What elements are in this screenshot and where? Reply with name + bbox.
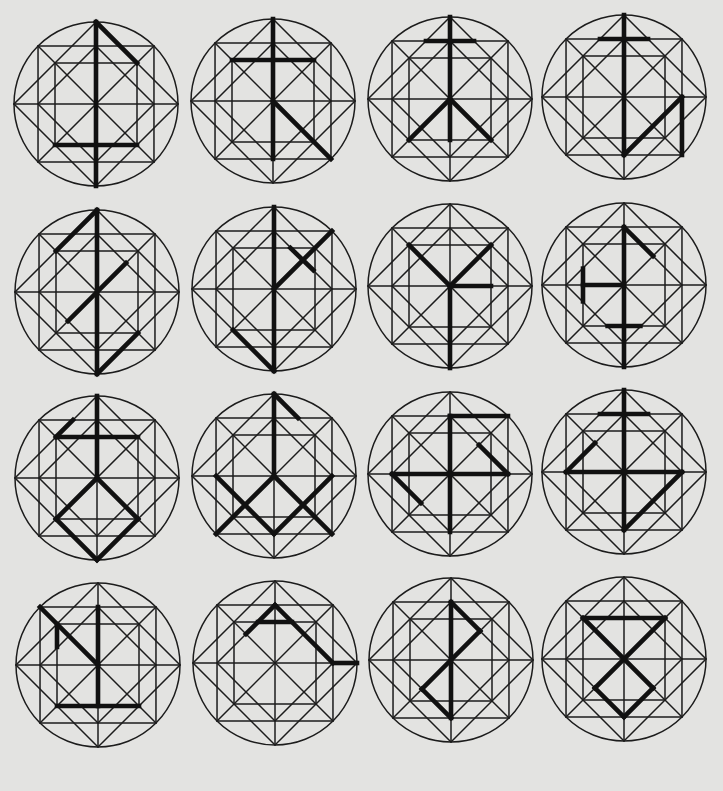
glyph (409, 17, 491, 140)
glyph-stroke (409, 99, 450, 140)
glyph-stroke (624, 688, 653, 717)
symbol-14 (193, 581, 357, 745)
symbol-10 (192, 394, 356, 558)
glyph-stroke (56, 420, 73, 437)
glyph-stroke (56, 519, 97, 560)
glyph-stroke (233, 330, 274, 371)
symbol-15 (369, 578, 533, 742)
glyph-stroke (246, 605, 275, 634)
diagram-canvas (0, 0, 723, 791)
glyph-stroke (96, 22, 137, 63)
glyph (583, 227, 653, 367)
symbol-1 (14, 22, 178, 186)
glyph-stroke (56, 210, 97, 251)
glyph-stroke (274, 394, 298, 418)
glyph-stroke (409, 245, 450, 286)
glyph-stroke (450, 245, 491, 286)
symbol-11 (368, 392, 532, 556)
symbol-5 (15, 210, 179, 374)
symbol-8 (542, 203, 706, 367)
glyph-stroke (422, 689, 451, 718)
symbol-7 (368, 204, 532, 368)
symbol-3 (368, 17, 532, 181)
symbol-13 (16, 583, 180, 747)
symbol-16 (542, 577, 706, 741)
glyph (232, 19, 331, 159)
glyph-stroke (450, 99, 491, 140)
glyph-stroke (583, 618, 653, 688)
glyph-stroke (392, 474, 421, 503)
glyph-stroke (97, 478, 138, 519)
symbol-6 (192, 207, 356, 371)
symbol-2 (191, 19, 355, 183)
symbol-4 (542, 15, 706, 179)
glyph-stroke (479, 445, 508, 474)
symbol-9 (15, 396, 179, 560)
glyph-stroke (566, 443, 595, 472)
glyph-stroke (97, 519, 138, 560)
glyph-stroke (595, 618, 665, 688)
glyph-stroke (595, 688, 624, 717)
symbol-12 (542, 390, 706, 554)
symbol-grid (0, 0, 723, 791)
glyph-stroke (451, 602, 480, 631)
glyph-stroke (624, 227, 653, 256)
glyph-stroke (97, 333, 138, 374)
glyph-stroke (56, 478, 97, 519)
